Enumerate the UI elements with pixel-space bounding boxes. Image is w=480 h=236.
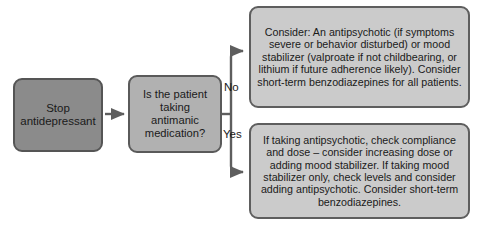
node-stop-antidepressant: Stop antidepressant <box>13 78 103 152</box>
edge-label-no: No <box>224 82 239 94</box>
edge-decision-to-no <box>231 51 243 74</box>
node-no-branch-recommendation-label: Consider: An antipsychotic (if symptoms … <box>251 26 468 88</box>
node-decision-antimanic-medication-label: Is the patient taking antimanic medicati… <box>130 88 220 140</box>
node-stop-antidepressant-label: Stop antidepressant <box>15 102 101 129</box>
flowchart-canvas: No Yes Stop antidepressant Is the patien… <box>0 0 480 236</box>
edge-label-yes: Yes <box>223 129 242 141</box>
node-yes-branch-recommendation: If taking antipsychotic, check complianc… <box>249 123 470 219</box>
node-no-branch-recommendation: Consider: An antipsychotic (if symptoms … <box>249 6 470 108</box>
node-yes-branch-recommendation-label: If taking antipsychotic, check complianc… <box>251 134 468 208</box>
node-decision-antimanic-medication: Is the patient taking antimanic medicati… <box>128 75 222 153</box>
edge-decision-to-yes <box>231 155 243 172</box>
